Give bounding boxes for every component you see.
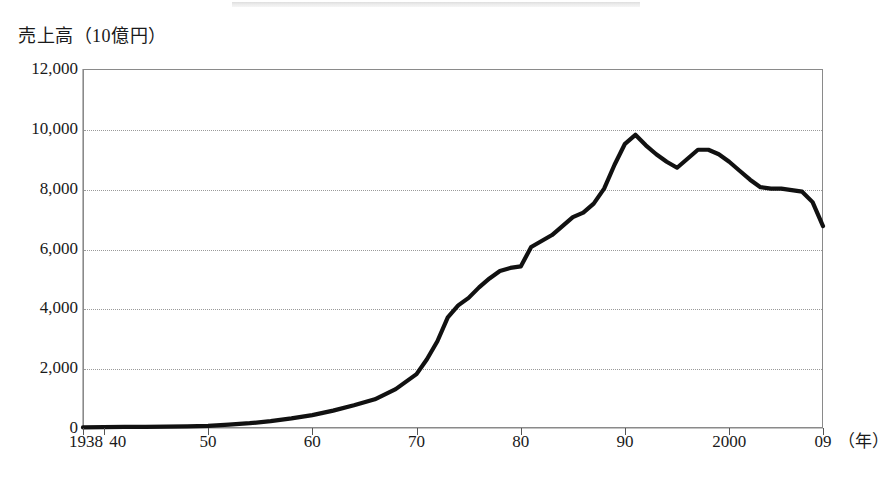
x-tick-mark-2000 [729,428,730,435]
x-tick-mark-1960 [312,428,313,435]
gridline-2000 [84,369,822,370]
gridline-8000 [84,190,822,191]
y-axis-title: 売上高（10億円） [18,21,167,47]
x-tick-label-1960: 60 [304,432,321,452]
x-tick-label-2000: 2000 [712,432,746,452]
gridline-10000 [84,130,822,131]
y-tick-label-8000: 8,000 [5,180,83,197]
x-tick-mark-1938 [83,428,84,435]
x-tick-label-1940: 40 [109,432,126,452]
plot-area [83,69,823,428]
x-axis-tick-labels: 1938405060708090200009（年） [0,432,860,462]
x-tick-mark-1970 [417,428,418,435]
y-tick-label-10000: 10,000 [5,120,83,137]
y-tick-label-4000: 4,000 [5,299,83,316]
y-tick-label-12000: 12,000 [5,60,83,77]
x-tick-label-1938: 1938 [69,432,103,452]
x-tick-mark-2009 [823,428,824,435]
x-tick-mark-1990 [625,428,626,435]
x-tick-mark-1950 [208,428,209,435]
x-tick-label-1990: 90 [616,432,633,452]
x-tick-label-2009: 09 [815,432,832,452]
x-tick-mark-1940 [104,428,105,435]
y-tick-label-2000: 2,000 [5,359,83,376]
y-axis-tick-labels: 12,00010,0008,0006,0004,0002,0000 [0,69,83,428]
scan-artifact [232,2,640,7]
x-axis-unit-label: （年） [838,432,882,452]
x-tick-mark-1980 [521,428,522,435]
x-tick-label-1980: 80 [512,432,529,452]
gridline-4000 [84,309,822,310]
x-tick-label-1950: 50 [200,432,217,452]
x-tick-label-1970: 70 [408,432,425,452]
y-tick-label-6000: 6,000 [5,240,83,257]
gridline-6000 [84,250,822,251]
